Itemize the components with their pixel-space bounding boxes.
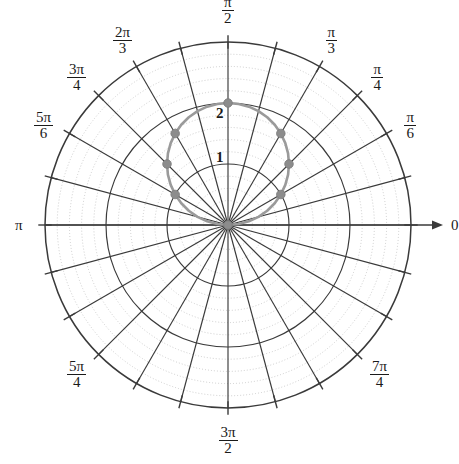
radial-label-1: 1	[216, 149, 224, 166]
fraction-pi-over-4: π 4	[371, 62, 383, 93]
numerator: 3π	[219, 425, 238, 440]
theta-label-pi-over-2: π 2	[222, 0, 234, 26]
denominator: 3	[326, 40, 338, 56]
numerator: π	[371, 62, 383, 77]
denominator: 2	[222, 10, 234, 26]
theta-label-5pi-over-4: 5π 4	[67, 359, 86, 390]
denominator: 4	[67, 77, 86, 93]
denominator: 3	[113, 40, 132, 56]
denominator: 6	[34, 125, 53, 141]
fraction-2pi-over-3: 2π 3	[113, 25, 132, 56]
denominator: 2	[219, 440, 238, 456]
theta-label-5pi-over-6: 5π 6	[34, 110, 53, 141]
numerator: π	[326, 25, 338, 40]
theta-label-0-text: 0	[451, 218, 459, 233]
fraction-pi-over-3: π 3	[326, 25, 338, 56]
numerator: 2π	[113, 25, 132, 40]
radial-label-2: 2	[216, 105, 224, 122]
theta-label-pi-text: π	[15, 218, 23, 233]
theta-label-3pi-over-4: 3π 4	[67, 62, 86, 93]
denominator: 4	[370, 374, 389, 390]
theta-label-pi-over-4: π 4	[371, 62, 383, 93]
fraction-pi-over-2: π 2	[222, 0, 234, 26]
denominator: 4	[67, 374, 86, 390]
theta-label-3pi-over-2: 3π 2	[219, 425, 238, 456]
fraction-5pi-over-6: 5π 6	[34, 110, 53, 141]
numerator: 5π	[67, 359, 86, 374]
denominator: 6	[404, 125, 416, 141]
numerator: 3π	[67, 62, 86, 77]
fraction-pi-over-6: π 6	[404, 110, 416, 141]
numerator: 7π	[370, 359, 389, 374]
fraction-5pi-over-4: 5π 4	[67, 359, 86, 390]
theta-label-0: 0	[451, 217, 459, 233]
theta-label-pi: π	[15, 217, 23, 233]
theta-label-pi-over-3: π 3	[326, 25, 338, 56]
theta-label-pi-over-6: π 6	[404, 110, 416, 141]
numerator: π	[404, 110, 416, 125]
fraction-3pi-over-4: 3π 4	[67, 62, 86, 93]
denominator: 4	[371, 77, 383, 93]
theta-label-2pi-over-3: 2π 3	[113, 25, 132, 56]
fraction-7pi-over-4: 7π 4	[370, 359, 389, 390]
fraction-3pi-over-2: 3π 2	[219, 425, 238, 456]
numerator: π	[222, 0, 234, 10]
theta-label-7pi-over-4: 7π 4	[370, 359, 389, 390]
numerator: 5π	[34, 110, 53, 125]
